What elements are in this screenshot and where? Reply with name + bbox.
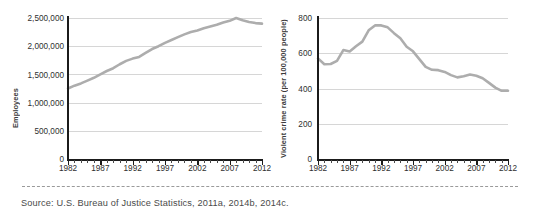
x-tick-label: 1987 — [91, 164, 109, 173]
y-tick-label: 400 — [298, 84, 312, 93]
x-tick-minor — [343, 160, 344, 163]
x-tick-minor — [324, 160, 325, 163]
x-tick-minor — [407, 160, 408, 163]
x-tick-minor — [337, 160, 338, 163]
violent-crime-y-axis-line — [317, 16, 319, 161]
x-tick-minor — [107, 160, 108, 163]
violent-crime-y-axis-label: Violent crime rate (per 100,000 people) — [279, 14, 288, 164]
x-tick-label: 1997 — [156, 164, 174, 173]
x-tick-label: 2012 — [499, 164, 517, 173]
x-tick-label: 1992 — [372, 164, 390, 173]
x-tick-label: 1992 — [124, 164, 142, 173]
employees-y-tick-labels: 2,500,000 2,000,000 1,500,000 1,000,000 … — [16, 0, 64, 178]
x-tick-minor — [243, 160, 244, 163]
x-tick-minor — [249, 160, 250, 163]
y-tick-label: 2,000,000 — [28, 42, 64, 51]
x-tick-minor — [331, 160, 332, 163]
x-tick-label: 1982 — [309, 164, 327, 173]
x-tick-minor — [362, 160, 363, 163]
x-tick-label: 1987 — [341, 164, 359, 173]
x-tick-minor — [457, 160, 458, 163]
x-tick-minor — [146, 160, 147, 163]
x-tick-minor — [94, 160, 95, 163]
x-tick-minor — [356, 160, 357, 163]
x-tick-minor — [432, 160, 433, 163]
x-tick-label: 1997 — [404, 164, 422, 173]
employees-chart-panel: Employees 2,500,000 2,000,000 1,500,000 … — [0, 0, 268, 178]
x-tick-minor — [223, 160, 224, 163]
x-tick-minor — [217, 160, 218, 163]
x-tick-minor — [394, 160, 395, 163]
x-tick-minor — [369, 160, 370, 163]
x-tick-minor — [236, 160, 237, 163]
x-tick-minor — [464, 160, 465, 163]
x-tick-minor — [204, 160, 205, 163]
x-tick-label: 2002 — [436, 164, 454, 173]
x-tick-minor — [81, 160, 82, 163]
x-tick-minor — [495, 160, 496, 163]
x-tick-minor — [87, 160, 88, 163]
x-tick-minor — [159, 160, 160, 163]
x-tick-label: 2007 — [221, 164, 239, 173]
x-tick-minor — [74, 160, 75, 163]
x-tick-minor — [171, 160, 172, 163]
x-tick-minor — [139, 160, 140, 163]
x-tick-minor — [451, 160, 452, 163]
x-tick-minor — [489, 160, 490, 163]
x-tick-minor — [120, 160, 121, 163]
x-tick-minor — [388, 160, 389, 163]
x-tick-minor — [419, 160, 420, 163]
y-tick-label: 1,000,000 — [28, 99, 64, 108]
x-tick-minor — [483, 160, 484, 163]
x-tick-minor — [126, 160, 127, 163]
violent-crime-plot-area — [318, 18, 508, 159]
x-tick-minor — [256, 160, 257, 163]
y-tick-label: 500,000 — [34, 127, 64, 136]
y-tick-label: 0 — [59, 155, 64, 164]
x-tick-label: 2007 — [467, 164, 485, 173]
x-tick-minor — [400, 160, 401, 163]
x-tick-label: 2002 — [188, 164, 206, 173]
x-tick-minor — [375, 160, 376, 163]
footer-divider — [22, 186, 518, 187]
violent-crime-y-tick-labels: 800 600 400 200 0 — [288, 0, 312, 178]
x-tick-minor — [426, 160, 427, 163]
x-tick-minor — [152, 160, 153, 163]
x-tick-minor — [470, 160, 471, 163]
employees-y-axis-line — [67, 16, 69, 161]
x-tick-minor — [184, 160, 185, 163]
y-tick-label: 200 — [298, 119, 312, 128]
x-tick-minor — [210, 160, 211, 163]
x-tick-minor — [502, 160, 503, 163]
figure-container: Employees 2,500,000 2,000,000 1,500,000 … — [0, 0, 536, 219]
y-tick-label: 600 — [298, 49, 312, 58]
x-tick-minor — [438, 160, 439, 163]
y-tick-label: 0 — [307, 155, 312, 164]
x-tick-minor — [113, 160, 114, 163]
y-tick-label: 2,500,000 — [28, 14, 64, 23]
x-tick-label: 1982 — [59, 164, 77, 173]
y-tick-label: 800 — [298, 14, 312, 23]
source-note: Source: U.S. Bureau of Justice Statistic… — [21, 198, 289, 208]
y-tick-label: 1,500,000 — [28, 71, 64, 80]
employees-plot-area — [68, 18, 262, 159]
x-tick-minor — [191, 160, 192, 163]
employees-data-line — [68, 18, 262, 159]
violent-crime-data-line — [318, 18, 508, 159]
x-tick-minor — [178, 160, 179, 163]
